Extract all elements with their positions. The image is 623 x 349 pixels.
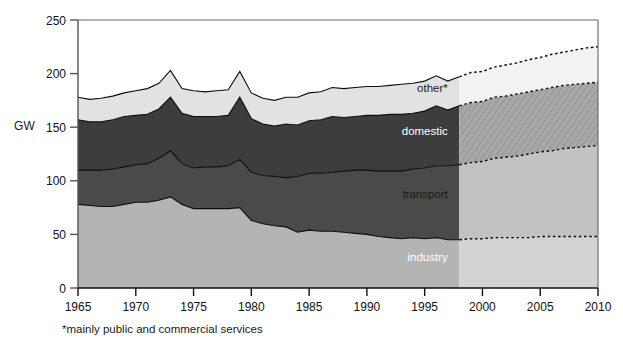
historical-area-bands: [78, 70, 459, 288]
y-tick-label: 200: [46, 67, 66, 81]
y-axis-title: GW: [14, 119, 35, 133]
x-tick-label: 1990: [354, 300, 381, 314]
series-label-transport: transport: [402, 188, 448, 200]
x-tick-label: 1970: [122, 300, 149, 314]
series-label-domestic: domestic: [402, 125, 448, 137]
series-label-industry: industry: [407, 251, 448, 263]
x-tick-label: 1995: [411, 300, 438, 314]
x-tick-label: 2010: [585, 300, 612, 314]
chart-canvas: 0501001502002501965197019751980198519901…: [0, 0, 623, 349]
series-label-other: other*: [417, 82, 448, 94]
x-tick-label: 1965: [65, 300, 92, 314]
x-tick-label: 1975: [180, 300, 207, 314]
x-tick-label: 2000: [469, 300, 496, 314]
y-tick-label: 0: [59, 282, 66, 296]
x-tick-label: 1980: [238, 300, 265, 314]
y-tick-label: 100: [46, 174, 66, 188]
chart-footnote: *mainly public and commercial services: [62, 323, 263, 335]
y-tick-label: 50: [53, 228, 67, 242]
x-tick-label: 1985: [296, 300, 323, 314]
y-tick-label: 250: [46, 14, 66, 28]
area-band-projection-industry: [459, 237, 598, 288]
x-tick-label: 2005: [527, 300, 554, 314]
projection-area-bands: [459, 47, 598, 288]
y-tick-label: 150: [46, 121, 66, 135]
stacked-area-chart: GW 0501001502002501965197019751980198519…: [0, 0, 623, 349]
